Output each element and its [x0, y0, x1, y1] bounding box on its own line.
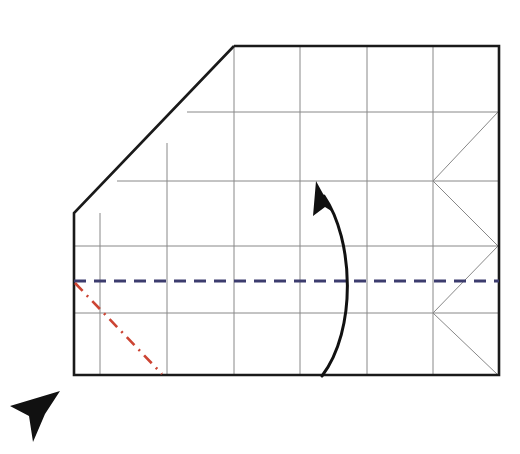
diagram-canvas — [0, 0, 520, 454]
origami-crease-pattern — [0, 0, 520, 454]
